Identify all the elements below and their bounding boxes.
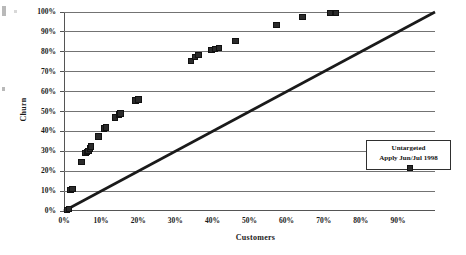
data-point — [299, 14, 305, 20]
x-axis-tick-label: 40% — [192, 217, 232, 225]
y-axis-tick-label: 70% — [16, 68, 56, 76]
y-axis-tick-label: 0% — [16, 207, 56, 215]
data-point — [66, 206, 72, 212]
x-axis-tick-label: 50% — [230, 217, 270, 225]
data-point — [69, 186, 75, 192]
x-axis-tick-label: 60% — [267, 217, 307, 225]
data-point — [78, 159, 84, 165]
y-axis-tick-label: 30% — [16, 147, 56, 155]
x-axis-tick-label: 90% — [378, 217, 418, 225]
y-axis-tick-label: 100% — [16, 8, 56, 16]
y-axis-tick-label: 60% — [16, 88, 56, 96]
y-axis-tick-label: 90% — [16, 28, 56, 36]
x-axis-tick-label: 20% — [118, 217, 158, 225]
y-axis-tick-label: 80% — [16, 48, 56, 56]
data-point — [195, 52, 201, 58]
legend-subtitle: Apply Jun/Jul 1998 — [367, 153, 450, 163]
scan-artifact-speck — [2, 87, 5, 91]
data-point — [232, 38, 238, 44]
x-axis-tick-label: 80% — [341, 217, 381, 225]
data-point — [333, 10, 339, 16]
x-axis-title: Customers — [76, 233, 435, 242]
chart-figure: Churn Customers 0%10%20%30%40%50%60%70%8… — [0, 0, 466, 255]
legend-title: Untargeted — [367, 143, 450, 153]
y-axis-tick-label: 20% — [16, 167, 56, 175]
data-point — [216, 45, 222, 51]
data-point — [117, 110, 123, 116]
data-point — [88, 143, 94, 149]
data-point — [103, 124, 109, 130]
plot-area: Untargeted Apply Jun/Jul 1998 — [64, 12, 435, 211]
legend-box: Untargeted Apply Jun/Jul 1998 — [366, 140, 451, 170]
scan-artifact-speck — [2, 6, 6, 16]
x-axis-tick-label: 30% — [155, 217, 195, 225]
legend-series-marker — [407, 165, 413, 171]
x-axis-tick-label: 10% — [81, 217, 121, 225]
y-axis-tick-label: 50% — [16, 108, 56, 116]
y-axis-tick-label: 40% — [16, 127, 56, 135]
x-axis-tick-label: 0% — [44, 217, 84, 225]
x-axis-tick-label: 70% — [304, 217, 344, 225]
y-axis-tick-label: 10% — [16, 187, 56, 195]
data-point — [135, 96, 141, 102]
data-point — [273, 22, 279, 28]
data-point — [95, 133, 101, 139]
